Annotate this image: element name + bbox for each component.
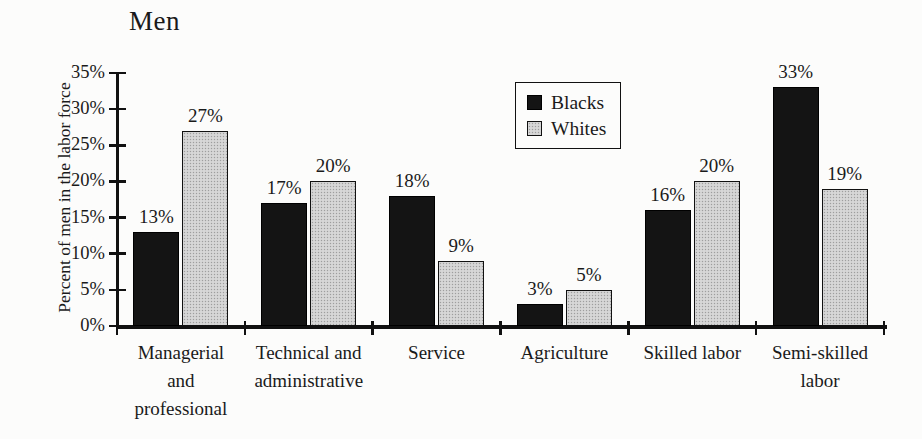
y-tick (109, 180, 126, 183)
y-tick-label: 20% (39, 169, 105, 191)
bar-whites (566, 290, 612, 326)
y-tick (109, 144, 126, 147)
y-tick (109, 289, 126, 292)
value-label: 20% (293, 156, 373, 177)
bar-whites (182, 131, 228, 326)
value-label: 19% (805, 164, 885, 185)
y-tick (109, 72, 126, 75)
x-axis-tick (116, 321, 119, 335)
whites-swatch-icon (527, 121, 542, 136)
x-axis-tick (499, 321, 502, 335)
y-tick-label: 30% (39, 97, 105, 119)
value-label: 5% (549, 265, 629, 286)
y-tick-label: 15% (39, 206, 105, 228)
x-axis-tick (883, 321, 886, 335)
value-label: 33% (756, 62, 836, 83)
value-label: 18% (372, 171, 452, 192)
category-label: Semi-skilled labor (738, 339, 902, 395)
x-axis-tick (755, 321, 758, 335)
x-axis-tick (244, 321, 247, 335)
blacks-swatch-icon (527, 95, 542, 110)
y-tick-label: 25% (39, 133, 105, 155)
value-label: 20% (677, 156, 757, 177)
bar-whites (310, 181, 356, 326)
legend-item-whites: Whites (527, 119, 620, 139)
y-tick (109, 252, 126, 255)
y-tick-label: 0% (39, 314, 105, 336)
bar-whites (694, 181, 740, 326)
bar-whites (438, 261, 484, 326)
y-tick-label: 35% (39, 61, 105, 83)
legend: Blacks Whites (515, 82, 621, 149)
bar-blacks (133, 232, 179, 326)
value-label: 27% (165, 106, 245, 127)
x-axis-tick (371, 321, 374, 335)
y-tick-label: 5% (39, 278, 105, 300)
y-tick (109, 108, 126, 111)
bar-blacks (389, 196, 435, 326)
y-tick-label: 10% (39, 242, 105, 264)
legend-label-blacks: Blacks (551, 93, 604, 113)
bar-blacks (773, 87, 819, 326)
bar-blacks (645, 210, 691, 326)
chart-title: Men (129, 6, 180, 37)
bar-chart: Men Percent of men in the labor force 0%… (0, 0, 922, 439)
bar-whites (822, 189, 868, 326)
bar-blacks (517, 304, 563, 326)
bar-blacks (261, 203, 307, 326)
value-label: 9% (421, 236, 501, 257)
legend-item-blacks: Blacks (527, 93, 620, 113)
x-axis-tick (627, 321, 630, 335)
legend-label-whites: Whites (551, 119, 606, 139)
